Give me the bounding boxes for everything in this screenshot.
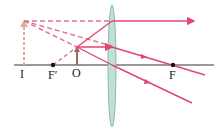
ray-central-out [112,65,192,103]
dashed-ray-4 [53,47,77,65]
focal-point-right [171,63,175,67]
label-object: O [72,67,81,79]
ray-through-f [112,47,205,75]
diagram-svg [0,0,218,137]
ray-focal-in [77,21,112,47]
lens-diagram: I F′ O F [0,0,218,137]
dashed-ray-3 [24,21,77,47]
ray-central [77,47,112,65]
label-focal-right: F [169,69,176,81]
label-image: I [20,68,24,80]
ray-arrow-mid [141,54,147,59]
focal-point-left [51,63,55,67]
label-focal-left: F′ [48,69,57,81]
